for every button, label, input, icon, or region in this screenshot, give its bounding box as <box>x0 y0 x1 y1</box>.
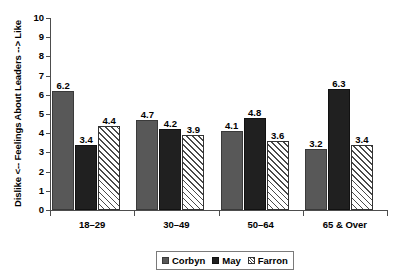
y-axis-tick-label: 1 <box>20 185 44 196</box>
x-axis-tick-mark <box>387 210 388 216</box>
legend-item-label: Corbyn <box>172 255 205 266</box>
y-axis-tick-label: 3 <box>20 146 44 157</box>
y-axis-tick-label: 10 <box>20 12 44 23</box>
bar-value-label: 3.4 <box>80 134 93 145</box>
bar-value-label: 3.9 <box>187 124 200 135</box>
x-axis-tick-mark <box>134 210 135 216</box>
x-axis-tick-mark <box>219 210 220 216</box>
legend-item-may: May <box>212 255 240 266</box>
x-axis-category-label: 65 & Over <box>303 219 387 230</box>
x-axis-category-label: 18–29 <box>50 219 134 230</box>
bar-value-label: 4.8 <box>248 107 261 118</box>
bar-value-label: 4.4 <box>103 115 116 126</box>
plot-area: 6.23.44.44.74.23.94.14.83.63.26.33.4 <box>50 18 387 210</box>
y-axis-tick-label: 4 <box>20 127 44 138</box>
bar-may-0: 3.4 <box>75 145 97 210</box>
y-axis-tick-label: 6 <box>20 89 44 100</box>
bar-value-label: 4.7 <box>141 109 154 120</box>
bar-farron-2: 3.6 <box>267 141 289 210</box>
bar-may-3: 6.3 <box>328 89 350 210</box>
legend-swatch-icon <box>212 257 219 264</box>
legend-item-corbyn: Corbyn <box>162 255 205 266</box>
y-axis-tick-label: 0 <box>20 204 44 215</box>
bar-corbyn-1: 4.7 <box>136 120 158 210</box>
bar-value-label: 4.1 <box>225 120 238 131</box>
y-axis-tick-label: 5 <box>20 108 44 119</box>
x-axis-category-label: 50–64 <box>219 219 303 230</box>
bar-farron-0: 4.4 <box>98 126 120 210</box>
bar-corbyn-0: 6.2 <box>52 91 74 210</box>
legend-item-label: May <box>222 255 240 266</box>
legend-item-label: Farron <box>258 255 288 266</box>
y-axis-tick-label: 9 <box>20 31 44 42</box>
y-axis-tick-label: 8 <box>20 50 44 61</box>
bar-may-2: 4.8 <box>244 118 266 210</box>
bar-value-label: 3.2 <box>309 138 322 149</box>
x-axis-category-label: 30–49 <box>134 219 218 230</box>
legend-swatch-icon <box>162 257 169 264</box>
x-axis-tick-mark <box>303 210 304 216</box>
bar-corbyn-2: 4.1 <box>221 131 243 210</box>
bar-value-label: 6.3 <box>332 78 345 89</box>
legend-swatch-icon <box>248 257 255 264</box>
bar-value-label: 3.4 <box>355 134 368 145</box>
bar-corbyn-3: 3.2 <box>305 149 327 210</box>
bar-farron-3: 3.4 <box>351 145 373 210</box>
x-axis-tick-mark <box>50 210 51 216</box>
bar-value-label: 6.2 <box>57 80 70 91</box>
bar-may-1: 4.2 <box>159 129 181 210</box>
y-axis-tick-label: 7 <box>20 70 44 81</box>
bar-farron-1: 3.9 <box>182 135 204 210</box>
chart-legend: CorbynMayFarron <box>156 251 294 270</box>
bar-chart: Dislike <-- Feelings About Leaders --> L… <box>0 0 401 278</box>
y-axis-tick-label: 2 <box>20 166 44 177</box>
bar-value-label: 4.2 <box>164 118 177 129</box>
legend-item-farron: Farron <box>248 255 288 266</box>
bar-value-label: 3.6 <box>271 130 284 141</box>
